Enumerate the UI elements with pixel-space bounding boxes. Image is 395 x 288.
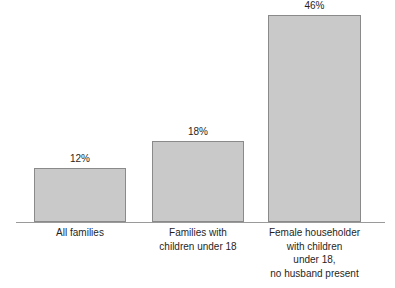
category-label: All families — [14, 226, 146, 240]
bar-female-householder — [268, 15, 361, 222]
plot-area: 12% 18% 46% All families Families with c… — [0, 0, 395, 288]
bar-all-families — [34, 168, 126, 222]
x-axis-baseline — [16, 222, 385, 223]
category-label: Female householder with children under 1… — [248, 226, 381, 280]
bar-value-label: 12% — [34, 153, 126, 165]
bar-value-label: 18% — [152, 126, 244, 138]
bar-value-label: 46% — [268, 0, 361, 12]
category-label: Families with children under 18 — [132, 226, 264, 253]
bar-families-with-children-under-18 — [152, 141, 244, 222]
bar-chart: 12% 18% 46% All families Families with c… — [0, 0, 395, 288]
